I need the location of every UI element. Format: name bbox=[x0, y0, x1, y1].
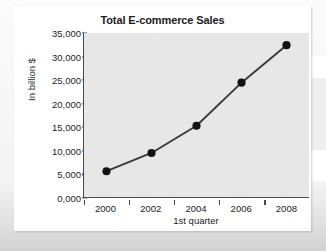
x-tick-label: 2004 bbox=[185, 203, 206, 214]
series-line bbox=[107, 45, 287, 171]
right-edge-panel-highlight-top bbox=[311, 56, 326, 78]
x-axis-label: 1st quarter bbox=[83, 215, 309, 226]
x-tick-mark bbox=[84, 200, 85, 205]
y-tick-label: 10,000 bbox=[25, 145, 81, 156]
screenshot-root: Total E-commerce Sales In billion $ 35,0… bbox=[0, 0, 326, 251]
data-point-marker bbox=[192, 122, 200, 130]
y-axis-ticks: 35,00030,00025,00020,00015,00010,0005,00… bbox=[19, 33, 81, 198]
plot-area bbox=[83, 33, 309, 198]
x-tick-label: 2002 bbox=[140, 203, 161, 214]
chart-title: Total E-commerce Sales bbox=[14, 14, 311, 26]
x-tick-mark bbox=[174, 200, 175, 205]
x-tick-label: 2008 bbox=[276, 203, 297, 214]
data-point-marker bbox=[237, 79, 245, 87]
data-point-marker bbox=[282, 41, 290, 49]
y-tick-label: 20,000 bbox=[25, 98, 81, 109]
y-tick-label: 0,000 bbox=[25, 193, 81, 204]
data-point-marker bbox=[147, 149, 155, 157]
line-series-svg bbox=[84, 33, 309, 197]
x-tick-mark bbox=[264, 200, 265, 205]
chart-card: Total E-commerce Sales In billion $ 35,0… bbox=[14, 6, 311, 231]
y-tick-label: 5,000 bbox=[25, 169, 81, 180]
y-tick-label: 35,000 bbox=[25, 28, 81, 39]
series-markers bbox=[102, 41, 290, 175]
x-tick-label: 2006 bbox=[231, 203, 252, 214]
right-edge-panel-highlight-bottom bbox=[311, 150, 326, 181]
x-tick-mark bbox=[129, 200, 130, 205]
x-tick-label: 2000 bbox=[95, 203, 116, 214]
y-tick-label: 30,000 bbox=[25, 51, 81, 62]
y-tick-label: 25,000 bbox=[25, 75, 81, 86]
y-tick-label: 15,000 bbox=[25, 122, 81, 133]
data-point-marker bbox=[102, 167, 110, 175]
x-tick-mark bbox=[219, 200, 220, 205]
